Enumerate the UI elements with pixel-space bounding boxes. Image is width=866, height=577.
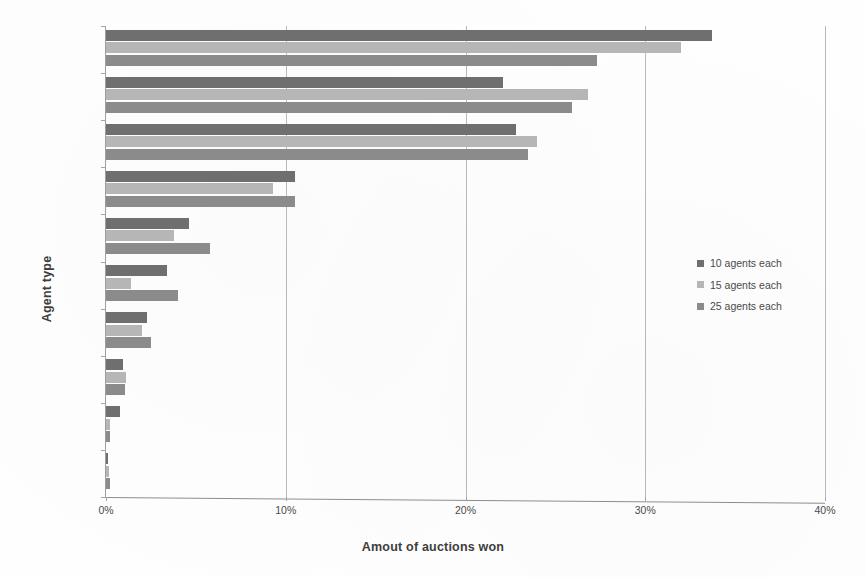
bar-group (106, 26, 825, 73)
bar-group (106, 214, 825, 261)
legend-item: 25 agents each (697, 301, 782, 312)
bar-cbpbms-series2 (106, 372, 126, 383)
y-axis-tick (101, 262, 106, 263)
bar-pbms-series3 (106, 478, 110, 489)
gridline (825, 26, 826, 497)
x-axis-tick (106, 497, 107, 501)
bar-pbms-series2 (106, 466, 109, 477)
bar-group (106, 120, 825, 167)
x-axis-tick-label: 20% (455, 504, 476, 516)
bar-pbms-series1 (106, 453, 108, 464)
bar-group (106, 73, 825, 120)
y-axis-tick (101, 450, 106, 451)
y-axis-tick (101, 120, 106, 121)
y-axis-tick (101, 403, 106, 404)
bar-ctbms-series3 (106, 290, 178, 301)
x-axis-tick (466, 497, 467, 501)
bar-rs-series3 (106, 337, 151, 348)
bar-rs-series1 (106, 312, 147, 323)
bar-eps-series2 (106, 136, 537, 147)
x-axis-tick (286, 497, 287, 501)
y-axis-tick (101, 26, 106, 27)
bar-cts-series2 (106, 89, 588, 100)
legend-swatch-icon (697, 260, 704, 267)
legend-swatch-icon (697, 303, 704, 310)
bar-eps-series3 (106, 149, 528, 160)
x-axis-title: Amout of auctions won (0, 540, 866, 554)
bar-group (106, 450, 825, 497)
x-axis-tick-label: 10% (275, 504, 296, 516)
bar-rs-series2 (106, 325, 142, 336)
bar-cbpbms-series3 (106, 384, 125, 395)
bar-cbs-series2 (106, 42, 681, 53)
y-axis-tick (101, 167, 106, 168)
bar-cbbms-series3 (106, 196, 295, 207)
chart-legend: 10 agents each15 agents each25 agents ea… (697, 258, 782, 323)
bar-ctbms-series2 (106, 278, 131, 289)
legend-item: 10 agents each (697, 258, 782, 269)
bar-chart: Agent type Amout of auctions won 10 agen… (0, 0, 866, 577)
bar-group (106, 167, 825, 214)
x-axis-tick-label: 40% (814, 504, 835, 516)
bar-cbs-series3 (106, 55, 597, 66)
bar-cts-series3 (106, 102, 572, 113)
bar-rbms-series2 (106, 419, 110, 430)
bar-rbms-series1 (106, 406, 120, 417)
bar-cbbms-series2 (106, 183, 273, 194)
legend-item: 15 agents each (697, 280, 782, 291)
bar-epbms-series2 (106, 230, 174, 241)
legend-swatch-icon (697, 281, 704, 288)
x-axis-tick-label: 0% (98, 504, 113, 516)
bar-cbs-series1 (106, 30, 712, 41)
bar-epbms-series3 (106, 243, 210, 254)
x-axis-tick (825, 497, 826, 501)
y-axis-tick (101, 356, 106, 357)
legend-item-label: 10 agents each (710, 258, 782, 269)
bar-group (106, 403, 825, 450)
bar-cbpbms-series1 (106, 359, 123, 370)
bar-epbms-series1 (106, 218, 189, 229)
y-axis-tick (101, 73, 106, 74)
legend-item-label: 15 agents each (710, 280, 782, 291)
bar-rbms-series3 (106, 431, 110, 442)
y-axis-tick (101, 214, 106, 215)
bar-cbbms-series1 (106, 171, 295, 182)
bar-ctbms-series1 (106, 265, 167, 276)
x-axis-tick (645, 497, 646, 501)
y-axis-tick (101, 309, 106, 310)
y-axis-title: Agent type (40, 255, 54, 322)
y-axis-tick (101, 497, 106, 498)
bar-eps-series1 (106, 124, 516, 135)
bar-cts-series1 (106, 77, 503, 88)
x-axis-tick-label: 30% (635, 504, 656, 516)
legend-item-label: 25 agents each (710, 301, 782, 312)
bar-group (106, 356, 825, 403)
